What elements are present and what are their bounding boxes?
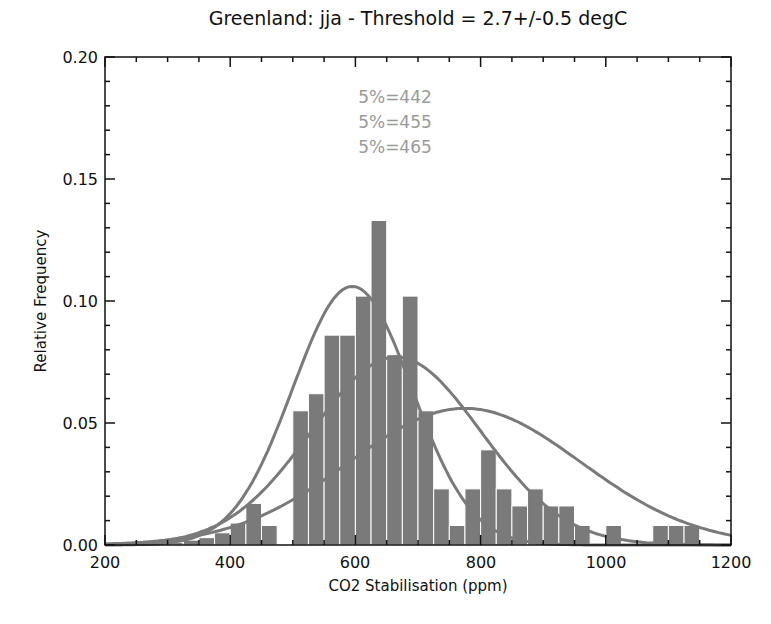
histogram-bar xyxy=(449,525,465,545)
x-tick-label: 200 xyxy=(90,553,121,572)
histogram-bar xyxy=(606,525,622,545)
chart-title: Greenland: jja - Threshold = 2.7+/-0.5 d… xyxy=(209,7,628,29)
histogram-bar xyxy=(418,411,434,545)
x-tick-label: 1200 xyxy=(711,553,752,572)
x-tick-label: 400 xyxy=(215,553,246,572)
y-tick-label: 0.05 xyxy=(62,414,98,433)
histogram-bar xyxy=(371,220,387,545)
histogram-bar xyxy=(340,335,356,545)
histogram-bar xyxy=(559,506,575,545)
x-axis-label: CO2 Stabilisation (ppm) xyxy=(328,577,507,595)
histogram-bar xyxy=(324,335,340,545)
annotation-455: 5%=455 xyxy=(358,112,432,132)
histogram-bar xyxy=(668,525,684,545)
histogram-chart: Greenland: jja - Threshold = 2.7+/-0.5 d… xyxy=(0,0,771,624)
y-tick-labels: 0.00 0.05 0.10 0.15 0.20 xyxy=(62,48,98,555)
x-tick-label: 800 xyxy=(466,553,497,572)
y-tick-label: 0.10 xyxy=(62,292,98,311)
histogram-bar xyxy=(434,489,450,545)
histogram-bar xyxy=(246,504,262,545)
x-tick-label: 1000 xyxy=(586,553,627,572)
y-axis-label: Relative Frequency xyxy=(32,230,50,373)
histogram-bar xyxy=(262,525,278,545)
x-tick-labels: 200 400 600 800 1000 1200 xyxy=(90,553,752,572)
histogram-bar xyxy=(199,538,215,545)
histogram-bar xyxy=(215,533,231,545)
y-tick-label: 0.00 xyxy=(62,536,98,555)
y-tick-label: 0.15 xyxy=(62,170,98,189)
histogram-bar xyxy=(684,525,700,545)
histogram-bar xyxy=(355,296,371,545)
histogram-bar xyxy=(293,411,309,545)
x-tick-label: 600 xyxy=(340,553,371,572)
histogram-bar xyxy=(387,355,403,545)
annotation-442: 5%=442 xyxy=(358,87,432,107)
y-tick-label: 0.20 xyxy=(62,48,98,67)
histogram-bars xyxy=(168,220,700,545)
annotation-465: 5%=465 xyxy=(358,137,432,157)
